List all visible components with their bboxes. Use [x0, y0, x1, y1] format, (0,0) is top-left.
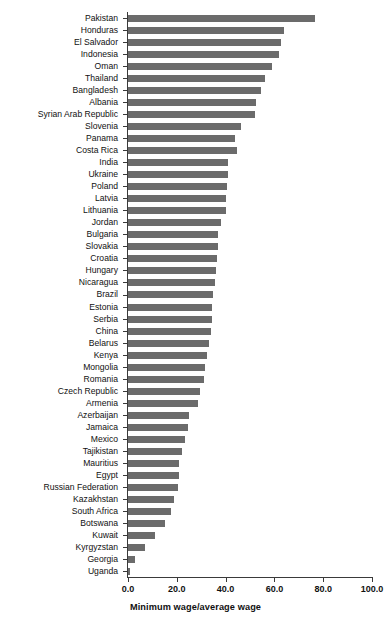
category-label: Nicaragua	[79, 276, 118, 289]
bar-row	[128, 252, 372, 265]
y-axis-tick	[123, 174, 127, 175]
bar	[128, 111, 255, 118]
bar-row	[128, 457, 372, 470]
y-axis-tick	[123, 210, 127, 211]
bar	[128, 448, 182, 455]
category-label: Azerbaijan	[77, 409, 118, 422]
bar	[128, 39, 281, 46]
x-axis-tick	[177, 578, 178, 582]
bar	[128, 279, 215, 286]
bar	[128, 147, 237, 154]
y-axis-tick	[123, 523, 127, 524]
x-axis-tick-label: 20.0	[168, 584, 186, 594]
y-axis-tick	[123, 246, 127, 247]
bar	[128, 304, 212, 311]
bar-row	[128, 409, 372, 422]
y-axis-tick	[123, 427, 127, 428]
bar	[128, 460, 179, 467]
category-label: Honduras	[81, 24, 118, 37]
category-label: Kenya	[94, 349, 118, 362]
category-label: Poland	[91, 180, 118, 193]
category-label: Bulgaria	[86, 228, 118, 241]
y-axis-tick	[123, 18, 127, 19]
bar	[128, 520, 165, 527]
category-label: China	[96, 325, 118, 338]
bar	[128, 472, 179, 479]
category-label: Albania	[89, 96, 118, 109]
bar	[128, 183, 227, 190]
plot-area	[128, 12, 372, 577]
y-axis-tick	[123, 487, 127, 488]
bar-row	[128, 349, 372, 362]
x-axis-title: Minimum wage/average wage	[0, 602, 391, 612]
bar	[128, 15, 315, 22]
bar	[128, 496, 174, 503]
bar	[128, 171, 228, 178]
y-axis-tick	[123, 475, 127, 476]
bar-row	[128, 433, 372, 446]
bar	[128, 436, 185, 443]
category-label: India	[99, 156, 118, 169]
bar	[128, 484, 178, 491]
y-axis-tick	[123, 30, 127, 31]
bar-row	[128, 421, 372, 434]
category-label: Romania	[84, 373, 118, 386]
bar	[128, 556, 135, 563]
x-axis-tick	[128, 578, 129, 582]
bar	[128, 328, 211, 335]
bar-row	[128, 385, 372, 398]
bar-row	[128, 120, 372, 133]
y-axis-tick	[123, 547, 127, 548]
bar-row	[128, 337, 372, 350]
bar-row	[128, 72, 372, 85]
x-axis-tick	[372, 578, 373, 582]
bar-row	[128, 216, 372, 229]
bar-row	[128, 481, 372, 494]
bar-row	[128, 469, 372, 482]
y-axis-tick	[123, 114, 127, 115]
category-label: Lithuania	[83, 204, 118, 217]
bar	[128, 135, 235, 142]
bar	[128, 99, 256, 106]
y-axis-tick	[123, 295, 127, 296]
bar	[128, 400, 198, 407]
x-axis-tick	[226, 578, 227, 582]
bar	[128, 424, 188, 431]
bar-row	[128, 228, 372, 241]
category-label: Kyrgyzstan	[75, 541, 118, 554]
bar-row	[128, 276, 372, 289]
y-axis-tick	[123, 54, 127, 55]
y-axis-tick	[123, 463, 127, 464]
category-label: Egypt	[96, 469, 118, 482]
bar	[128, 352, 207, 359]
y-axis-tick	[123, 78, 127, 79]
y-axis-tick	[123, 367, 127, 368]
bar-row	[128, 373, 372, 386]
bar	[128, 195, 226, 202]
category-axis-labels: PakistanHondurasEl SalvadorIndonesiaOman…	[0, 12, 124, 577]
y-axis-tick	[123, 126, 127, 127]
bar	[128, 231, 218, 238]
bar-row	[128, 24, 372, 37]
y-axis-tick	[123, 391, 127, 392]
category-label: Syrian Arab Republic	[38, 108, 118, 121]
category-label: Russian Federation	[43, 481, 118, 494]
category-label: Belarus	[89, 337, 118, 350]
y-axis-tick	[123, 307, 127, 308]
y-axis-tick	[123, 66, 127, 67]
category-label: Indonesia	[81, 48, 118, 61]
y-axis-tick	[123, 186, 127, 187]
category-label: Mexico	[91, 433, 118, 446]
y-axis-tick	[123, 270, 127, 271]
bar-row	[128, 204, 372, 217]
category-label: South Africa	[72, 505, 118, 518]
category-label: Mauritius	[83, 457, 118, 470]
y-axis-tick	[123, 403, 127, 404]
bar	[128, 51, 279, 58]
y-axis-tick	[123, 571, 127, 572]
bar	[128, 508, 171, 515]
y-axis-tick	[123, 222, 127, 223]
category-label: Latvia	[95, 192, 118, 205]
y-axis-tick	[123, 42, 127, 43]
category-label: Kuwait	[92, 529, 118, 542]
